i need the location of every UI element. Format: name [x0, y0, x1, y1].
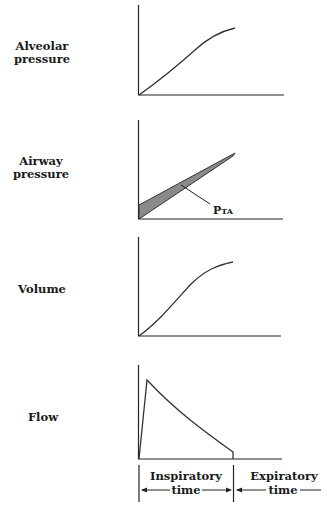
volume-curve	[139, 262, 233, 336]
pta-leader-line	[181, 185, 210, 204]
alveolar-pressure-curve	[139, 28, 235, 95]
panel-alveolar-pressure	[138, 5, 284, 95]
panel-airway-pressure: PTA	[138, 120, 283, 219]
panel-flow	[138, 365, 282, 459]
flow-curve	[139, 380, 233, 459]
inspiratory-label: Inspiratory	[150, 469, 222, 483]
panel-volume	[138, 237, 281, 336]
time-axis: Inspiratory time Expiratory time	[139, 465, 321, 502]
expiratory-label: Expiratory	[250, 469, 318, 483]
pta-label: PTA	[213, 204, 234, 217]
arrow-right-icon	[226, 488, 232, 493]
diagram-canvas: PTA Inspiratory time Expiratory time	[0, 0, 327, 512]
expiratory-time-label: time	[268, 483, 297, 497]
inspiratory-time-label: time	[171, 483, 200, 497]
arrow-left-icon	[141, 488, 147, 493]
